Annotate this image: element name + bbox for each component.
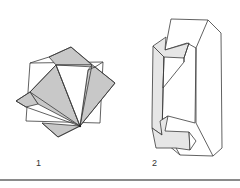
- bottom-divider: [0, 179, 240, 181]
- upper-notch-inner: [163, 57, 184, 88]
- figure-1-drawing: [16, 47, 115, 137]
- figure-1-label: 1: [36, 158, 41, 168]
- figure-2-drawing: [152, 19, 222, 156]
- cube-b-top-face: [49, 47, 92, 65]
- figure-2-label: 2: [152, 158, 157, 168]
- cube-b-bottom-face: [42, 123, 80, 137]
